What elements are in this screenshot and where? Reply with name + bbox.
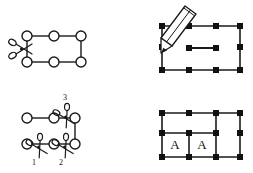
panel-numbered-cuts-graph: 1 2 3 <box>0 86 126 173</box>
graph-node <box>186 154 192 160</box>
node-group <box>159 110 243 160</box>
graph-node <box>213 154 219 160</box>
graph-node <box>159 110 165 116</box>
graph-node <box>237 110 243 116</box>
cell-label-a-1: A <box>170 137 180 152</box>
graph-canvas-bottom-left: 1 2 3 <box>0 86 126 173</box>
graph-canvas-top-left <box>0 0 126 86</box>
graph-canvas-top-right <box>126 0 253 86</box>
scissors-handle-upper <box>63 133 68 140</box>
graph-canvas-bottom-right: A A <box>126 86 253 173</box>
panel-labeled-cells-grid: A A <box>126 86 253 173</box>
cut-label-2: 2 <box>59 158 63 167</box>
graph-node <box>159 130 165 136</box>
graph-node <box>159 67 165 73</box>
graph-node <box>22 57 32 67</box>
graph-node <box>22 113 32 123</box>
graph-node <box>49 57 59 67</box>
graph-node <box>76 31 86 41</box>
graph-node <box>49 31 59 41</box>
graph-node <box>213 110 219 116</box>
graph-node <box>237 44 243 50</box>
scissors-handle-upper <box>64 103 69 110</box>
graph-node <box>186 130 192 136</box>
panel-pencil-draw-grid <box>126 0 253 86</box>
figure-root: 1 2 3 <box>0 0 253 173</box>
graph-node <box>237 130 243 136</box>
node-group <box>22 113 80 149</box>
graph-node <box>213 23 219 29</box>
scissors-handle-upper <box>37 133 42 140</box>
graph-node <box>22 31 32 41</box>
scissors-handle-lower <box>8 51 18 60</box>
graph-node <box>213 67 219 73</box>
scissors-pivot <box>21 48 23 50</box>
graph-node <box>159 23 165 29</box>
graph-node <box>186 67 192 73</box>
graph-node <box>237 23 243 29</box>
graph-node <box>76 57 86 67</box>
graph-node <box>70 139 80 149</box>
scissors-pivot <box>37 146 39 148</box>
graph-node <box>237 154 243 160</box>
scissors-pivot <box>64 116 66 118</box>
graph-node <box>186 110 192 116</box>
graph-node-center-right <box>213 45 219 51</box>
cell-label-a-2: A <box>197 137 207 152</box>
graph-node <box>159 154 165 160</box>
graph-node <box>213 130 219 136</box>
scissors-handle-upper <box>8 38 18 47</box>
graph-node <box>237 67 243 73</box>
node-group <box>22 31 86 67</box>
cut-label-1: 1 <box>32 158 36 167</box>
panel-single-cut-circle-graph <box>0 0 126 86</box>
graph-node-center-left <box>186 45 192 51</box>
cut-label-3: 3 <box>63 93 67 102</box>
scissors-pivot <box>63 146 65 148</box>
